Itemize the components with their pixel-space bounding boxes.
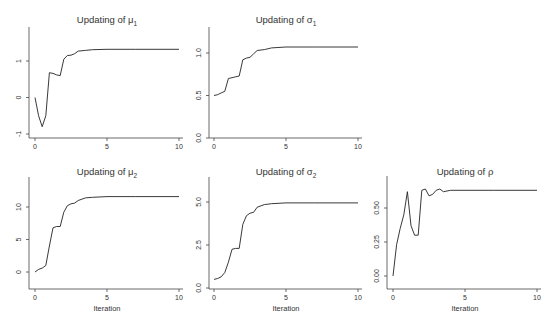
y-tick-label: 0.50 xyxy=(373,201,380,215)
x-tick-label: 0 xyxy=(391,294,395,301)
y-tick-label: 0.00 xyxy=(373,269,380,283)
y-tick-label: 0.25 xyxy=(373,235,380,249)
x-tick-label: 5 xyxy=(463,294,467,301)
plot-area: 0.000.250.500510 xyxy=(0,0,560,323)
chart-rho: Updating of ρ Iteration 0.000.250.500510 xyxy=(0,0,560,323)
x-tick-label: 10 xyxy=(533,294,541,301)
series-line xyxy=(393,189,537,276)
